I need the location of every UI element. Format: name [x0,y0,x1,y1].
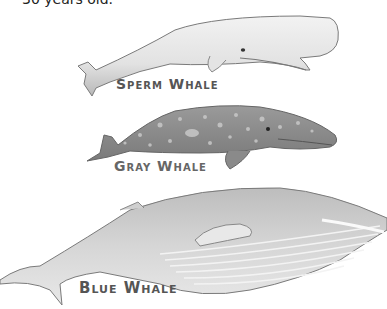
gray-whale-label: Gray Whale [114,158,207,174]
sperm-whale-label: Sperm Whale [116,76,219,92]
blue-whale-illustration [0,180,387,309]
blue-whale-label: Blue Whale [79,279,178,297]
